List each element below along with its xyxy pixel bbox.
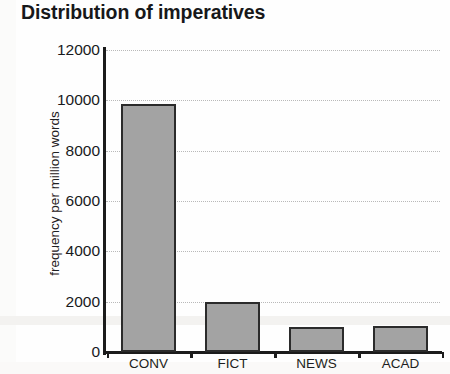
bar-acad[interactable] (373, 326, 428, 352)
chart-title: Distribution of imperatives (21, 1, 265, 24)
y-tick-label-8000: 8000 (66, 141, 100, 159)
bar-news[interactable] (289, 327, 344, 352)
y-tick-label-0: 0 (91, 343, 100, 361)
x-tick-label-acad: ACAD (382, 356, 420, 371)
x-axis-tick (442, 352, 444, 358)
y-axis-title: frequency per million words (47, 44, 62, 344)
x-axis-tick (359, 352, 361, 358)
gridline-10000 (106, 100, 440, 101)
plot-area: 020004000600080001000012000CONVFICTNEWSA… (106, 50, 440, 352)
y-tick-label-2000: 2000 (66, 292, 100, 310)
y-tick-label-6000: 6000 (66, 192, 100, 210)
x-tick-label-fict: FICT (218, 356, 248, 371)
chart-figure: Distribution of imperatives frequency pe… (0, 0, 450, 374)
bar-conv[interactable] (121, 104, 176, 352)
x-tick-label-conv: CONV (129, 356, 168, 371)
x-tick-label-news: NEWS (296, 356, 337, 371)
x-axis-tick (275, 352, 277, 358)
gridline-12000 (106, 50, 440, 51)
bar-fict[interactable] (205, 302, 260, 352)
x-axis-tick (191, 352, 193, 358)
y-tick-label-10000: 10000 (57, 91, 100, 109)
y-tick-label-12000: 12000 (57, 41, 100, 59)
scan-artifact-left (0, 0, 16, 374)
x-axis-tick (107, 352, 109, 358)
y-tick-label-4000: 4000 (66, 242, 100, 260)
